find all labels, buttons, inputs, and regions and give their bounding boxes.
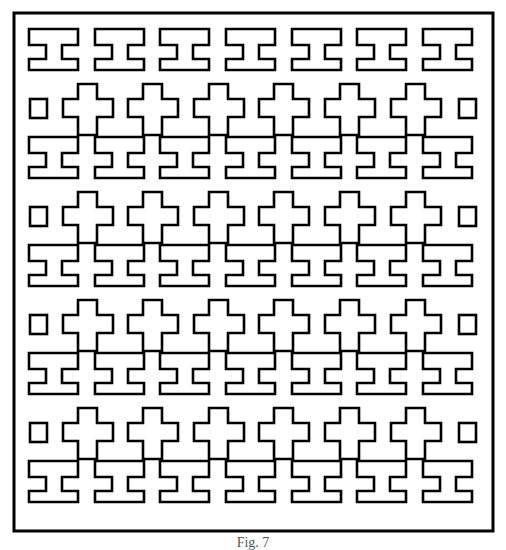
right-end-square xyxy=(459,207,476,226)
cross-shapes-group xyxy=(63,84,441,459)
cross-shape xyxy=(63,84,113,135)
cross-shape xyxy=(128,408,178,459)
i-shape xyxy=(357,461,406,502)
outer-frame xyxy=(14,13,493,531)
cross-shape xyxy=(325,192,375,243)
left-end-square xyxy=(30,423,47,442)
i-shape xyxy=(423,353,472,394)
cross-shape xyxy=(325,300,375,351)
i-shape xyxy=(29,245,78,286)
i-shape xyxy=(226,461,275,502)
cross-shape xyxy=(194,408,244,459)
cross-shape xyxy=(391,192,441,243)
i-shape xyxy=(423,461,472,502)
cross-shape xyxy=(391,300,441,351)
frame-border xyxy=(14,13,493,531)
cross-shape xyxy=(259,300,309,351)
i-shape xyxy=(29,29,78,70)
right-end-square xyxy=(459,99,476,118)
i-shape xyxy=(226,245,275,286)
cross-shape xyxy=(128,84,178,135)
i-shape xyxy=(160,461,209,502)
i-shape xyxy=(95,29,144,70)
cross-shape xyxy=(194,84,244,135)
cross-shape xyxy=(259,192,309,243)
cross-shape xyxy=(259,84,309,135)
i-shape xyxy=(357,137,406,178)
cross-shape xyxy=(325,84,375,135)
i-shape xyxy=(95,353,144,394)
cross-shape xyxy=(63,408,113,459)
figure-caption: Fig. 7 xyxy=(0,536,506,550)
right-end-square xyxy=(459,423,476,442)
i-shape xyxy=(29,353,78,394)
i-shape xyxy=(160,137,209,178)
left-end-square xyxy=(30,315,47,334)
i-shape xyxy=(357,29,406,70)
i-shape xyxy=(423,137,472,178)
i-shape xyxy=(226,353,275,394)
cross-shape xyxy=(259,408,309,459)
cross-shape xyxy=(128,192,178,243)
cross-shape xyxy=(194,192,244,243)
i-shape xyxy=(423,245,472,286)
i-shape xyxy=(423,29,472,70)
cross-shape xyxy=(128,300,178,351)
cross-shape xyxy=(194,300,244,351)
i-shape xyxy=(95,137,144,178)
cross-shape xyxy=(391,408,441,459)
i-shape xyxy=(226,137,275,178)
i-shape xyxy=(292,29,341,70)
i-shape xyxy=(95,461,144,502)
i-shape xyxy=(357,245,406,286)
i-shape xyxy=(95,245,144,286)
i-shape xyxy=(292,245,341,286)
left-end-square xyxy=(30,99,47,118)
i-shape xyxy=(160,353,209,394)
cross-shape xyxy=(391,84,441,135)
cross-shape xyxy=(63,300,113,351)
i-shape xyxy=(29,137,78,178)
i-shape xyxy=(292,137,341,178)
i-shape xyxy=(357,353,406,394)
i-shape xyxy=(292,461,341,502)
cross-shape xyxy=(63,192,113,243)
cross-shape xyxy=(325,408,375,459)
right-end-square xyxy=(459,315,476,334)
left-end-square xyxy=(30,207,47,226)
i-shape xyxy=(292,353,341,394)
i-shape xyxy=(160,245,209,286)
i-shape xyxy=(29,461,78,502)
i-shape xyxy=(160,29,209,70)
i-shape xyxy=(226,29,275,70)
end-squares-group xyxy=(30,99,476,442)
